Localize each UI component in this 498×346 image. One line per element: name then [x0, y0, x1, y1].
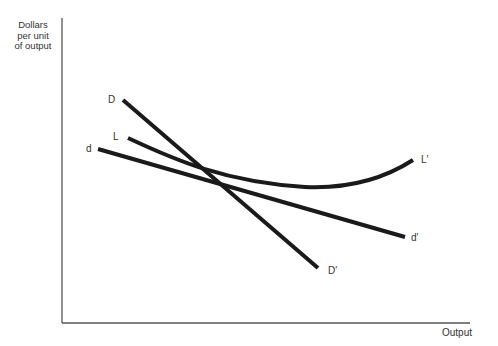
curve-LL	[128, 138, 413, 187]
label-d: d	[86, 143, 92, 155]
y-axis-label: Dollars per unit of output	[8, 20, 58, 52]
x-axis-label: Output	[442, 327, 472, 339]
y-axis-label-line-3: of output	[8, 41, 58, 52]
label-L-prime: L′	[421, 154, 428, 166]
label-D: D	[108, 94, 115, 106]
label-d-prime: d′	[411, 232, 418, 244]
label-D-prime: D′	[328, 265, 337, 277]
label-L: L	[113, 131, 119, 143]
diagram-canvas	[0, 0, 498, 346]
curve-dd	[98, 149, 405, 237]
y-axis-label-line-1: Dollars	[8, 20, 58, 31]
